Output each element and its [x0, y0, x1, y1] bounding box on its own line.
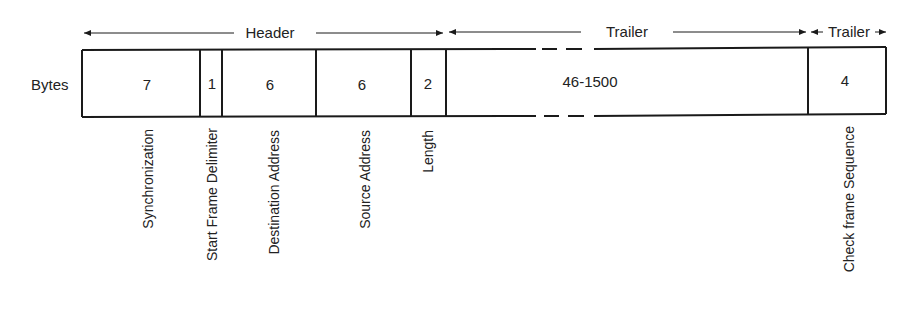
field-name-length: Length	[420, 130, 436, 173]
section-label-data-field: Trailer	[606, 23, 648, 40]
header-span-arrow: Header	[84, 24, 443, 41]
field-bytes-destination-address: 6	[266, 76, 274, 93]
field-name-source-address: Source Address	[357, 130, 373, 229]
field-names: Synchronization Start Frame Delimiter De…	[140, 126, 857, 273]
frame-boxes	[82, 47, 886, 117]
field-bytes-start-frame-delimiter: 1	[208, 75, 216, 92]
field-name-synchronization: Synchronization	[140, 129, 156, 229]
section-label-header: Header	[245, 24, 294, 41]
field-name-start-frame-delimiter: Start Frame Delimiter	[204, 128, 220, 261]
field-bytes-data: 46-1500	[562, 73, 617, 90]
field-bytes-length: 2	[424, 75, 432, 92]
field-bytes-source-address: 6	[358, 76, 366, 93]
field-name-check-frame-sequence: Check frame Sequence	[841, 126, 857, 273]
byte-counts: 7 1 6 6 2 46-1500 4	[143, 72, 849, 93]
bytes-row-label: Bytes	[31, 76, 69, 93]
section-arrows: Header Trailer Trailer	[84, 23, 886, 41]
data-field-span-arrow: Trailer	[449, 23, 806, 40]
field-bytes-check-frame-sequence: 4	[841, 72, 849, 89]
ethernet-frame-diagram: Header Trailer Trailer Bytes	[0, 0, 916, 315]
field-bytes-synchronization: 7	[143, 76, 151, 93]
trailer-span-arrow: Trailer	[811, 23, 886, 40]
field-name-destination-address: Destination Address	[266, 130, 282, 255]
section-label-trailer: Trailer	[828, 23, 870, 40]
